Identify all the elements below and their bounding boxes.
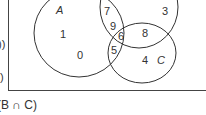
region-b-only-3: 3 bbox=[162, 6, 168, 17]
region-c-only-4: 4 bbox=[142, 55, 148, 66]
region-a-and-b-7: 7 bbox=[104, 6, 110, 17]
region-a-only-0: 0 bbox=[77, 50, 83, 61]
left-edge-fragment-1: )) bbox=[0, 38, 5, 50]
region-b-and-c-8: 8 bbox=[142, 28, 148, 39]
set-c-label: C bbox=[157, 55, 165, 66]
region-a-and-c-5: 5 bbox=[111, 45, 117, 56]
left-edge-fragment-2: ) bbox=[0, 71, 4, 83]
set-a-label: A bbox=[56, 5, 63, 16]
caption-b-intersect-c: (B ∩ C) bbox=[0, 98, 37, 112]
region-a-and-b-9: 9 bbox=[110, 21, 116, 32]
region-a-b-c-6: 6 bbox=[118, 31, 124, 42]
region-a-only-1: 1 bbox=[60, 29, 66, 40]
